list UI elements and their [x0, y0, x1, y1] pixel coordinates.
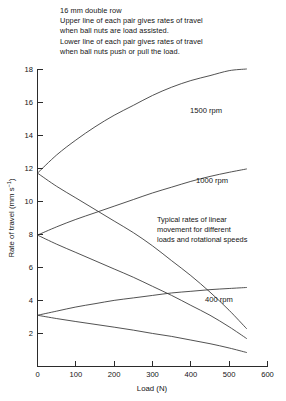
x-tick-marks	[38, 361, 268, 367]
y-tick-16: 16	[25, 98, 33, 107]
y-tick-labels: 18 16 14 12 10 8 6 4 2	[25, 65, 33, 338]
x-tick-200: 200	[108, 370, 121, 379]
curve-400-lower	[38, 315, 247, 352]
curve-1500-upper	[38, 69, 247, 173]
annotation-line-3: loads and rotational speeds	[157, 235, 248, 244]
annotation-line-2: movement for different	[157, 225, 231, 234]
chart-annotation-note: Typical rates of linear movement for dif…	[157, 215, 248, 244]
y-tick-12: 12	[25, 164, 33, 173]
chart-figure: 16 mm double row Upper line of each pair…	[0, 0, 286, 401]
y-axis-title: Rate of travel (mm s−1)	[6, 178, 16, 258]
curve-1000-lower	[38, 235, 247, 338]
y-axis-title-close: )	[7, 178, 16, 181]
x-tick-100: 100	[69, 370, 82, 379]
y-axis-title-main: Rate of travel (mm s	[7, 187, 16, 257]
annotation-line-1: Typical rates of linear	[157, 215, 227, 224]
y-tick-2: 2	[29, 329, 33, 338]
y-tick-14: 14	[25, 131, 33, 140]
y-tick-18: 18	[25, 65, 33, 74]
x-tick-500: 500	[223, 370, 236, 379]
y-tick-10: 10	[25, 197, 33, 206]
x-tick-600: 600	[261, 370, 274, 379]
y-tick-6: 6	[29, 263, 33, 272]
svg-text:Rate of travel (mm s−1): Rate of travel (mm s−1)	[6, 178, 16, 258]
x-tick-400: 400	[184, 370, 197, 379]
y-tick-8: 8	[29, 230, 33, 239]
series-label-1000rpm: 1000 rpm	[196, 176, 228, 185]
x-tick-labels: 0 100 200 300 400 500 600	[35, 370, 273, 379]
series-label-400rpm: 400 rpm	[205, 295, 233, 304]
x-tick-0: 0	[35, 370, 39, 379]
y-tick-4: 4	[29, 296, 33, 305]
series-label-1500rpm: 1500 rpm	[190, 106, 222, 115]
y-tick-marks	[38, 70, 44, 334]
x-tick-300: 300	[146, 370, 159, 379]
x-axis-title: Load (N)	[137, 384, 168, 393]
plot-area: 18 16 14 12 10 8 6 4 2 0 100 200 300 400	[0, 0, 286, 401]
